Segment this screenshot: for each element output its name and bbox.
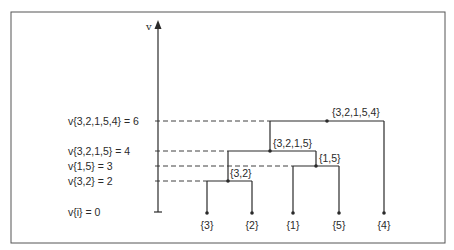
level-label-0: v{i} = 0: [68, 206, 101, 218]
leaf-label-5: {5}: [333, 219, 346, 231]
level-label-4: v{3,2,1,5} = 4: [68, 145, 130, 157]
merge-node-root: [325, 119, 329, 123]
leaf-dot-1: [291, 211, 295, 215]
merge-label-1-5: {1,5}: [319, 152, 341, 164]
merge-label-3-2-1-5: {3,2,1,5}: [273, 137, 313, 149]
leaf-label-3: {3}: [201, 219, 214, 231]
level-label-6: v{3,2,1,5,4} = 6: [68, 115, 139, 127]
level-label-2: v{3,2} = 2: [68, 175, 113, 187]
merge-label-root: {3,2,1,5,4}: [332, 106, 380, 118]
leaf-dot-5: [337, 211, 341, 215]
dendrogram-diagram: v v{3,2,1,5,4} = 6 v{3,2,1,5} = 4 v{1,5}…: [0, 0, 454, 250]
merge-label-3-2: {3,2}: [230, 167, 252, 179]
axis-label: v: [145, 21, 152, 32]
level-label-3: v{1,5} = 3: [68, 160, 113, 172]
leaf-dot-2: [250, 211, 254, 215]
leaf-dot-3: [205, 211, 209, 215]
leaf-label-4: {4}: [378, 219, 391, 231]
leaf-dot-4: [382, 211, 386, 215]
leaf-label-1: {1}: [287, 219, 300, 231]
leaf-label-2: {2}: [246, 219, 259, 231]
axis-arrow-icon: [155, 20, 162, 29]
